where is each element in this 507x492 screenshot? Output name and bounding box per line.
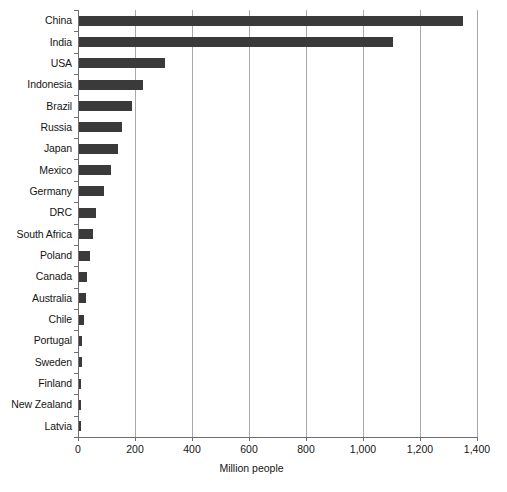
y-axis-tick bbox=[74, 117, 78, 118]
y-axis-category-label: Finland bbox=[38, 378, 72, 389]
y-axis-tick bbox=[74, 31, 78, 32]
y-axis-tick bbox=[74, 309, 78, 310]
gridline bbox=[135, 10, 136, 437]
y-axis-category-label: USA bbox=[51, 58, 72, 69]
y-axis-category-label: Japan bbox=[44, 143, 72, 154]
y-axis-tick bbox=[74, 330, 78, 331]
x-axis-tick-label: 1,400 bbox=[464, 443, 490, 455]
y-axis-category-label: Latvia bbox=[45, 421, 72, 432]
gridline bbox=[249, 10, 250, 437]
x-axis-tick bbox=[192, 437, 193, 441]
bar bbox=[79, 229, 93, 239]
x-axis-tick bbox=[135, 437, 136, 441]
bar bbox=[79, 251, 90, 261]
bar bbox=[79, 122, 122, 132]
bar bbox=[79, 58, 165, 68]
x-axis-tick bbox=[306, 437, 307, 441]
bar bbox=[79, 101, 132, 111]
y-axis-tick bbox=[74, 74, 78, 75]
x-axis-tick bbox=[420, 437, 421, 441]
y-axis-tick bbox=[74, 202, 78, 203]
x-axis-tick bbox=[363, 437, 364, 441]
y-axis-category-label: China bbox=[45, 15, 72, 26]
x-axis-tick-label: 1,000 bbox=[350, 443, 376, 455]
x-axis-tick-label: 200 bbox=[126, 443, 144, 455]
bar bbox=[79, 165, 111, 175]
plot-area bbox=[78, 10, 477, 437]
y-axis-tick bbox=[74, 10, 78, 11]
y-axis-tick bbox=[74, 159, 78, 160]
bar bbox=[79, 315, 84, 325]
y-axis-category-label: Mexico bbox=[39, 165, 72, 176]
x-axis-tick-label: 0 bbox=[75, 443, 81, 455]
y-axis-tick bbox=[74, 138, 78, 139]
y-axis-category-label: India bbox=[50, 37, 72, 48]
y-axis-category-label: Portugal bbox=[34, 335, 72, 346]
y-axis-category-label: Chile bbox=[49, 314, 72, 325]
y-axis-tick bbox=[74, 416, 78, 417]
y-axis-tick bbox=[74, 394, 78, 395]
bar bbox=[79, 186, 104, 196]
gridline bbox=[420, 10, 421, 437]
y-axis-category-label: Brazil bbox=[46, 101, 72, 112]
y-axis-tick bbox=[74, 181, 78, 182]
x-axis-tick-label: 800 bbox=[297, 443, 315, 455]
y-axis-tick bbox=[74, 95, 78, 96]
bar bbox=[79, 80, 143, 90]
x-axis-tick-label: 400 bbox=[183, 443, 201, 455]
bar-chart: ChinaIndiaUSAIndonesiaBrazilRussiaJapanM… bbox=[0, 0, 507, 492]
y-axis-tick bbox=[74, 245, 78, 246]
x-axis-title: Million people bbox=[0, 462, 507, 474]
y-axis-labels: ChinaIndiaUSAIndonesiaBrazilRussiaJapanM… bbox=[0, 0, 72, 492]
bar bbox=[79, 37, 393, 47]
x-axis-tick bbox=[249, 437, 250, 441]
y-axis-category-label: Russia bbox=[41, 122, 73, 133]
gridline bbox=[363, 10, 364, 437]
y-axis-tick bbox=[74, 352, 78, 353]
y-axis-tick bbox=[74, 266, 78, 267]
y-axis-category-label: Canada bbox=[36, 271, 72, 282]
bar bbox=[79, 421, 81, 431]
bar bbox=[79, 357, 82, 367]
y-axis-category-label: Poland bbox=[40, 250, 72, 261]
y-axis-tick bbox=[74, 53, 78, 54]
y-axis-category-label: New Zealand bbox=[11, 399, 72, 410]
bar bbox=[79, 16, 463, 26]
bar bbox=[79, 379, 81, 389]
x-axis-title-text: Million people bbox=[219, 462, 283, 474]
gridline bbox=[192, 10, 193, 437]
x-axis-tick-label: 600 bbox=[240, 443, 258, 455]
bar bbox=[79, 208, 96, 218]
y-axis-tick bbox=[74, 224, 78, 225]
y-axis-category-label: Australia bbox=[32, 293, 72, 304]
bar bbox=[79, 144, 118, 154]
x-axis-line bbox=[78, 437, 478, 438]
y-axis-tick bbox=[74, 373, 78, 374]
bar bbox=[79, 400, 81, 410]
y-axis-category-label: Germany bbox=[30, 186, 72, 197]
y-axis-tick bbox=[74, 288, 78, 289]
x-axis-tick bbox=[477, 437, 478, 441]
gridline bbox=[306, 10, 307, 437]
gridline bbox=[477, 10, 478, 437]
bar bbox=[79, 272, 87, 282]
bar bbox=[79, 336, 82, 346]
y-axis-category-label: Sweden bbox=[35, 357, 72, 368]
y-axis-category-label: Indonesia bbox=[27, 79, 72, 90]
x-axis-tick-label: 1,200 bbox=[407, 443, 433, 455]
bar bbox=[79, 293, 86, 303]
y-axis-category-label: South Africa bbox=[17, 229, 72, 240]
x-axis-tick bbox=[78, 437, 79, 441]
y-axis-category-label: DRC bbox=[50, 207, 72, 218]
